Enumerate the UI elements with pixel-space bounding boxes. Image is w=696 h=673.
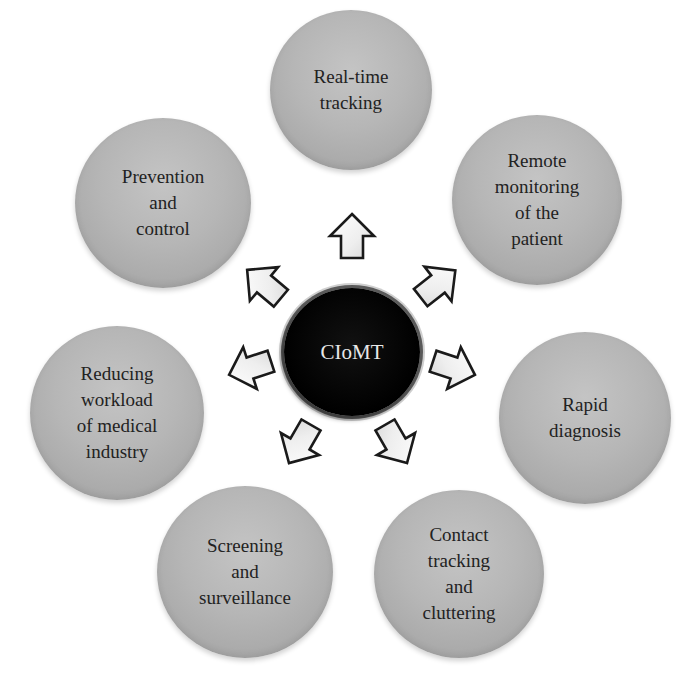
arrow-down-right-icon <box>366 414 426 474</box>
node-contact-tracking: Contact tracking and cluttering <box>374 490 544 658</box>
node-label: Reducing workload of medical industry <box>77 361 158 465</box>
node-label: Screening and surveillance <box>199 533 291 611</box>
hub-label: CIoMT <box>321 340 384 365</box>
arrow-right-icon <box>426 340 481 395</box>
node-real-time-tracking: Real-time tracking <box>270 10 432 170</box>
arrow-down-left-icon <box>270 414 330 474</box>
node-label: Real-time tracking <box>314 64 389 116</box>
node-remote-monitoring: Remote monitoring of the patient <box>452 115 622 285</box>
hub-ciomt: CIoMT <box>284 288 420 416</box>
node-label: Remote monitoring of the patient <box>495 148 579 252</box>
arrow-up-right-icon <box>407 253 469 315</box>
node-reducing-workload: Reducing workload of medical industry <box>30 326 204 500</box>
node-rapid-diagnosis: Rapid diagnosis <box>499 332 671 504</box>
node-label: Prevention and control <box>122 164 204 242</box>
node-screening: Screening and surveillance <box>157 486 333 658</box>
arrow-up-left-icon <box>233 253 295 315</box>
node-label: Rapid diagnosis <box>549 392 621 444</box>
arrow-up-icon <box>330 214 374 258</box>
arrow-left-icon <box>222 340 277 395</box>
node-label: Contact tracking and cluttering <box>423 522 496 626</box>
node-prevention: Prevention and control <box>75 118 251 288</box>
